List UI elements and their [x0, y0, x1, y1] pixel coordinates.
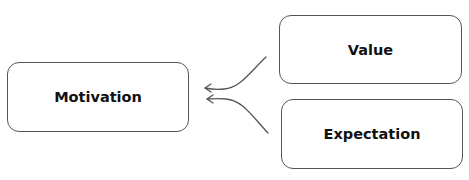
edge-expectation-to-motivation	[207, 95, 268, 133]
node-expectation: Expectation	[281, 99, 463, 169]
node-motivation: Motivation	[7, 62, 189, 132]
node-label: Motivation	[54, 89, 142, 105]
arrowhead-icon	[207, 95, 213, 103]
edge-value-to-motivation	[205, 57, 266, 92]
node-value: Value	[279, 15, 462, 84]
arrowhead-icon	[205, 84, 211, 92]
node-label: Expectation	[324, 126, 421, 142]
node-label: Value	[348, 42, 393, 58]
